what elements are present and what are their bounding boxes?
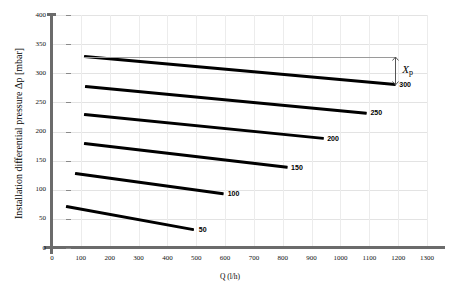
annotation-reference-line bbox=[84, 57, 396, 58]
curve-label-300: 300 bbox=[399, 81, 411, 88]
curve-line-300 bbox=[84, 55, 396, 86]
curve-label-250: 250 bbox=[370, 109, 382, 116]
curve-line-250 bbox=[85, 85, 367, 115]
curve-label-200: 200 bbox=[327, 135, 339, 142]
y-axis-title: Installation differential pressure Δp [m… bbox=[13, 20, 24, 248]
curve-label-150: 150 bbox=[291, 164, 303, 171]
curve-line-50 bbox=[66, 205, 195, 231]
curve-line-100 bbox=[75, 172, 224, 195]
curve-series-group: 50100150200250300Xp bbox=[0, 0, 453, 298]
x-axis-title: Q (l/h) bbox=[170, 272, 290, 281]
curve-label-50: 50 bbox=[199, 226, 207, 233]
curve-line-200 bbox=[84, 113, 324, 140]
curve-line-150 bbox=[84, 142, 288, 169]
chart-root: 050100150200250300350400 010020030040050… bbox=[0, 0, 453, 298]
annotation-double-arrow-icon bbox=[391, 56, 400, 86]
annotation-label-xp: Xp bbox=[402, 64, 413, 78]
curve-label-100: 100 bbox=[228, 190, 240, 197]
